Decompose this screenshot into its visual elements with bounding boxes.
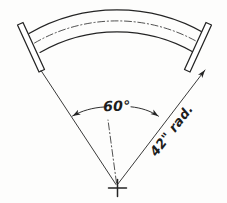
right-radius-line — [118, 70, 206, 185]
outer-arc — [29, 10, 205, 34]
radius-label: 42" rad. — [146, 101, 196, 159]
technical-drawing-canvas: 60° 42" rad. — [0, 0, 227, 203]
angle-label: 60° — [103, 98, 131, 115]
curved-rod-diagram: 60° 42" rad. — [0, 0, 227, 203]
center-cross-mark — [109, 180, 127, 197]
inner-arc — [40, 32, 194, 53]
angle-dimension-arc-right — [131, 107, 159, 116]
left-end-flange — [18, 23, 45, 73]
angle-dimension-arc-left — [73, 107, 105, 116]
left-radius-line — [41, 71, 116, 185]
